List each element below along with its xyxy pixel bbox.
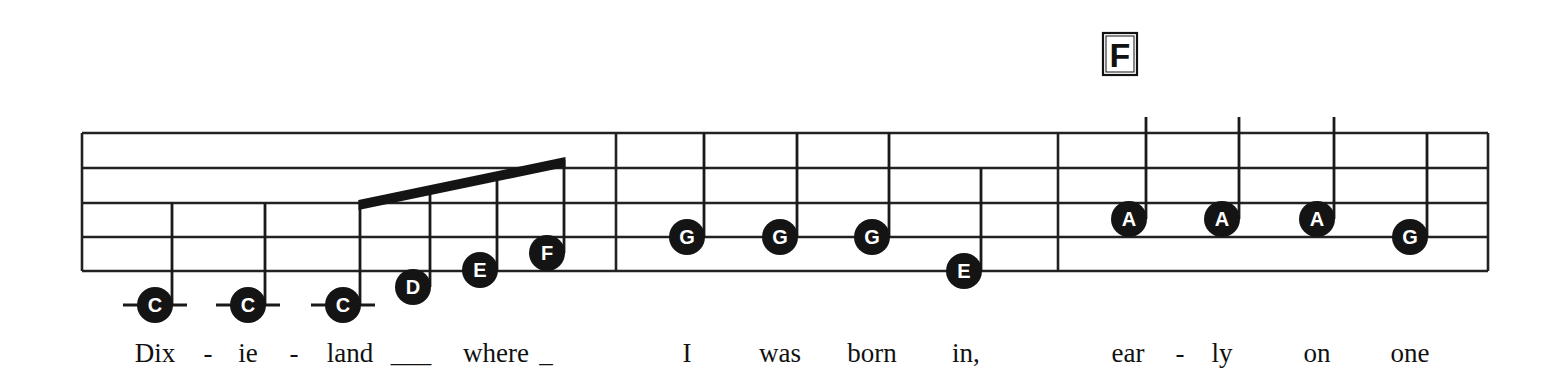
lyric-syllable: in, <box>952 338 980 368</box>
note-g: G <box>1392 133 1428 255</box>
note-letter: G <box>679 226 695 248</box>
note-letter: F <box>541 242 553 264</box>
lyric-syllable: I <box>683 338 692 368</box>
note-a: A <box>1299 117 1335 237</box>
note-g: G <box>854 133 890 255</box>
note-letter: G <box>1402 226 1418 248</box>
lyric-syllable: one <box>1391 338 1430 368</box>
note-letter: A <box>1122 208 1136 230</box>
note-letter: G <box>864 226 880 248</box>
note-letter: D <box>406 276 420 298</box>
lyric-syllable: - <box>204 338 213 368</box>
note-letter: C <box>241 294 255 316</box>
note-a: A <box>1111 117 1147 237</box>
note-letter: C <box>148 294 162 316</box>
lyric-syllable: land <box>327 338 374 368</box>
lyric-syllable: _ <box>538 338 553 368</box>
lyric-syllable: ie <box>238 338 258 368</box>
note-g: G <box>669 133 705 255</box>
note-c: C <box>123 203 187 323</box>
note-c: C <box>216 203 280 323</box>
note-letter: A <box>1215 208 1229 230</box>
chord-label: F <box>1110 36 1131 74</box>
chord-symbol: F <box>1103 33 1137 75</box>
measure-2: GGGE <box>669 133 982 289</box>
note-d: D <box>395 187 431 305</box>
lyric-syllable: born <box>847 338 897 368</box>
lyric-syllable: on <box>1304 338 1332 368</box>
note-e: E <box>946 168 982 289</box>
lyrics: Dix-ie-land___where_Iwasbornin,ear-lyono… <box>135 338 1430 368</box>
note-g: G <box>762 133 798 255</box>
lyric-syllable: Dix <box>135 338 176 368</box>
measure-3: AAAG <box>1111 117 1428 255</box>
note-letter: G <box>772 226 788 248</box>
lyric-syllable: ly <box>1211 338 1233 368</box>
lyric-syllable: ear <box>1112 338 1145 368</box>
lyric-syllable: ___ <box>390 338 432 368</box>
note-f: F <box>529 160 565 271</box>
notes: CCCDEFGGGEAAAG <box>123 117 1428 323</box>
lyric-syllable: where <box>463 338 529 368</box>
music-score: F CCCDEFGGGEAAAG Dix-ie-land___where_Iwa… <box>0 0 1564 390</box>
lyric-syllable: - <box>290 338 299 368</box>
note-letter: C <box>336 294 350 316</box>
note-letter: E <box>957 260 970 282</box>
note-e: E <box>462 174 498 288</box>
note-letter: A <box>1310 208 1324 230</box>
lyric-syllable: was <box>759 338 801 368</box>
note-a: A <box>1204 117 1240 237</box>
lyric-syllable: - <box>1176 338 1185 368</box>
measure-1: CCCDEF <box>123 157 566 323</box>
note-letter: E <box>473 259 486 281</box>
note-c: C <box>311 200 375 323</box>
